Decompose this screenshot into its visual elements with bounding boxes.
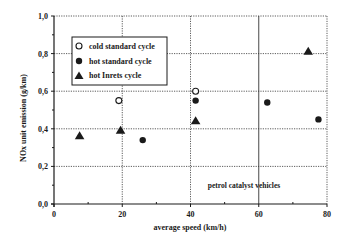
filled-circle-marker bbox=[140, 137, 146, 143]
y-tick-label: 0,4 bbox=[38, 125, 48, 134]
filled-circle-marker bbox=[264, 99, 270, 105]
x-axis-title: average speed (km/h) bbox=[154, 223, 227, 232]
filled-circle-marker bbox=[315, 116, 321, 122]
nox-emission-scatter-chart: 0,00,20,40,60,81,0020406080 cold standar… bbox=[0, 0, 344, 247]
filled-circle-icon bbox=[76, 58, 82, 64]
open-circle-marker bbox=[116, 98, 122, 104]
filled-triangle-marker bbox=[116, 126, 126, 134]
x-tick-label: 60 bbox=[255, 210, 263, 219]
filled-triangle-marker bbox=[303, 47, 313, 55]
legend-label: hot Inrets cycle bbox=[89, 71, 142, 80]
filled-triangle-marker bbox=[75, 131, 85, 139]
x-tick-label: 80 bbox=[323, 210, 331, 219]
x-tick-label: 20 bbox=[118, 210, 126, 219]
x-tick-label: 0 bbox=[52, 210, 56, 219]
chart-annotation: petrol catalyst vehicles bbox=[208, 181, 280, 190]
legend: cold standard cycle hot standard cycle h… bbox=[72, 37, 167, 85]
legend-label: cold standard cycle bbox=[89, 42, 155, 51]
y-tick-label: 0,8 bbox=[38, 50, 48, 59]
y-axis-title: NOx unit emission (g/km) bbox=[19, 74, 28, 162]
filled-triangle-marker bbox=[191, 116, 201, 124]
y-tick-label: 0,2 bbox=[38, 162, 48, 171]
y-tick-label: 0,6 bbox=[38, 87, 48, 96]
y-tick-label: 1,0 bbox=[38, 12, 48, 21]
open-circle-icon bbox=[76, 43, 82, 49]
filled-circle-marker bbox=[192, 97, 198, 103]
legend-label: hot standard cycle bbox=[89, 57, 152, 66]
x-tick-label: 40 bbox=[187, 210, 195, 219]
open-circle-marker bbox=[193, 88, 199, 94]
y-tick-label: 0,0 bbox=[38, 200, 48, 209]
